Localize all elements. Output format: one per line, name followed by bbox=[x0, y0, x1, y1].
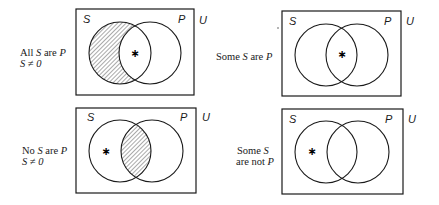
existence-marker-icon: ∗ bbox=[102, 145, 111, 158]
venn-some-s-are-not-p: S P U ∗ bbox=[282, 109, 416, 194]
label-s: S bbox=[83, 13, 91, 25]
venn-no-s-are-p: S P U ∗ bbox=[76, 108, 210, 193]
label-p: P bbox=[178, 13, 186, 25]
existence-marker-icon: ∗ bbox=[338, 48, 347, 61]
venn-all-s-are-p: S P U ∗ bbox=[76, 9, 207, 95]
label-u: U bbox=[408, 113, 416, 125]
label-p: P bbox=[180, 111, 188, 123]
label-s: S bbox=[87, 111, 95, 123]
existence-marker-icon: ∗ bbox=[131, 47, 140, 60]
label-p: P bbox=[385, 113, 393, 125]
label-u: U bbox=[199, 14, 207, 26]
label-u: U bbox=[406, 15, 414, 27]
stray-mark bbox=[277, 27, 278, 28]
circle-s bbox=[295, 121, 357, 183]
label-s: S bbox=[289, 15, 297, 27]
label-p: P bbox=[384, 15, 392, 27]
venn-some-s-are-p: S P U ∗ bbox=[277, 11, 414, 96]
label-u: U bbox=[202, 111, 210, 123]
existence-marker-icon: ∗ bbox=[308, 145, 317, 158]
venn-diagrams-canvas: S P U ∗ S P U ∗ S P U ∗ S P U ∗ bbox=[0, 0, 439, 205]
circle-p bbox=[327, 121, 389, 183]
label-s: S bbox=[289, 113, 297, 125]
